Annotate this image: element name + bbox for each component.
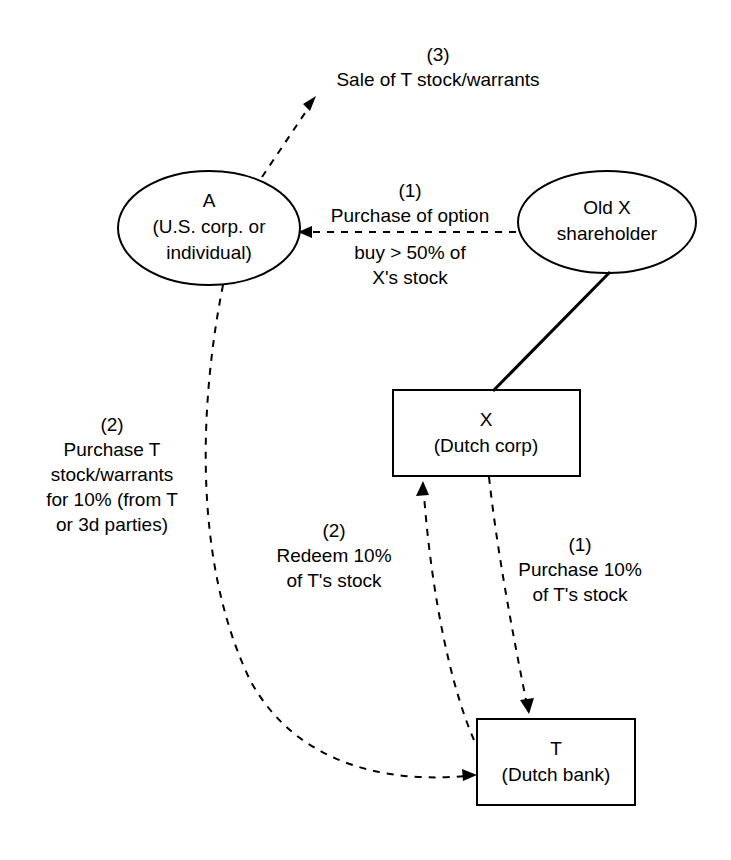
edge-label-purchase-option-bottom: buy > 50% of X's stock	[290, 240, 530, 290]
node-old-x-shareholder-label: Old X shareholder	[507, 195, 707, 247]
link-a-to-sale-of-t	[262, 107, 309, 177]
edge-label-purchase-t-stock: (2) Purchase T stock/warrants for 10% (f…	[0, 412, 227, 537]
edge-label-sale-of-t: (3) Sale of T stock/warrants	[273, 42, 603, 92]
edge-label-purchase-option-top: (1) Purchase of option	[290, 178, 530, 228]
node-t-label: T (Dutch bank)	[461, 736, 651, 788]
edge-label-redeem: (2) Redeem 10% of T's stock	[234, 518, 434, 593]
node-x-label: X (Dutch corp)	[391, 407, 581, 459]
edge-label-purchase-10: (1) Purchase 10% of T's stock	[480, 532, 680, 607]
node-a-label: A (U.S. corp. or individual)	[104, 188, 314, 266]
diagram-canvas: A (U.S. corp. or individual) Old X share…	[0, 0, 731, 860]
arrowhead-redeem-icon	[416, 481, 429, 496]
arrowhead-purchase-10-icon	[520, 698, 534, 714]
arrowhead-sale-of-t-icon	[303, 96, 316, 111]
